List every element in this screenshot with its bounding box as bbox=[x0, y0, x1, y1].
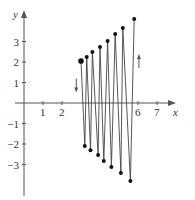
data-point bbox=[83, 144, 87, 148]
y-tick-label: 2 bbox=[14, 56, 20, 68]
x-tick-label: 6 bbox=[135, 106, 141, 118]
data-point bbox=[128, 179, 132, 183]
x-tick-label: 7 bbox=[154, 106, 160, 118]
data-point bbox=[85, 55, 89, 59]
y-tick-label: 3 bbox=[14, 36, 20, 48]
data-point bbox=[102, 159, 106, 163]
y-tick-label: −1 bbox=[7, 118, 19, 130]
data-point bbox=[89, 148, 93, 152]
series-path bbox=[81, 19, 134, 181]
arrow-up-head-icon bbox=[137, 54, 141, 59]
x-tick-label: 2 bbox=[59, 106, 65, 118]
data-point bbox=[121, 26, 125, 30]
data-point bbox=[132, 17, 136, 21]
y-tick-label: −2 bbox=[7, 138, 19, 150]
data-point bbox=[113, 32, 117, 36]
arrow-down-head-icon bbox=[74, 88, 78, 93]
y-tick-label: −3 bbox=[7, 159, 19, 171]
annotations bbox=[74, 54, 141, 93]
y-tick-label: 1 bbox=[14, 77, 20, 89]
x-ticks: 1267 bbox=[40, 101, 160, 118]
x-axis-label: x bbox=[172, 106, 178, 118]
data-point bbox=[109, 165, 113, 169]
oscillation-chart: x y 1267 321−1−2−3 bbox=[0, 0, 195, 200]
data-point bbox=[98, 45, 102, 49]
start-point bbox=[78, 58, 84, 64]
data-points bbox=[78, 17, 136, 183]
data-point bbox=[119, 171, 123, 175]
y-axis-arrow-icon bbox=[21, 10, 27, 18]
data-point bbox=[96, 153, 100, 157]
x-tick-label: 1 bbox=[40, 106, 46, 118]
series-line bbox=[81, 19, 134, 181]
data-point bbox=[90, 50, 94, 54]
y-axis-label: y bbox=[12, 8, 18, 20]
data-point bbox=[106, 39, 110, 43]
